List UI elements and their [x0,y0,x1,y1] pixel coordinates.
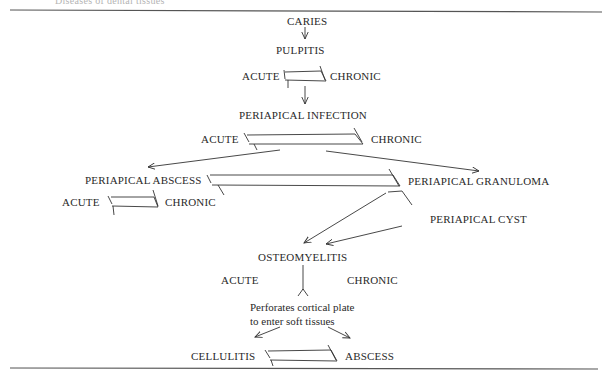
bottom-rule [10,368,598,369]
osteo-acute-label: ACUTE [221,274,259,286]
node-periapical-infection: PERIAPICAL INFECTION [239,109,367,121]
node-pulpitis: PULPITIS [276,44,325,56]
pulpitis-chronic-label: CHRONIC [330,70,381,82]
infection-chronic-label: CHRONIC [371,133,422,145]
node-caries: CARIES [287,15,327,27]
perforates-note-line2: to enter soft tissues [250,314,335,328]
pulpitis-acute-label: ACUTE [242,70,280,82]
node-cellulitis: CELLULITIS [191,350,255,362]
node-periapical-cyst: PERIAPICAL CYST [430,213,527,225]
abscess-chronic-label: CHRONIC [165,196,216,208]
top-rule [10,10,602,12]
node-osteomyelitis: OSTEOMYELITIS [258,251,347,263]
infection-acute-label: ACUTE [201,133,239,145]
node-periapical-abscess: PERIAPICAL ABSCESS [85,174,202,186]
abscess-acute-label: ACUTE [62,196,100,208]
node-periapical-granuloma: PERIAPICAL GRANULOMA [408,175,549,187]
perforates-note-line1: Perforates cortical plate [250,300,354,314]
osteo-chronic-label: CHRONIC [347,274,398,286]
node-abscess: ABSCESS [345,350,394,362]
